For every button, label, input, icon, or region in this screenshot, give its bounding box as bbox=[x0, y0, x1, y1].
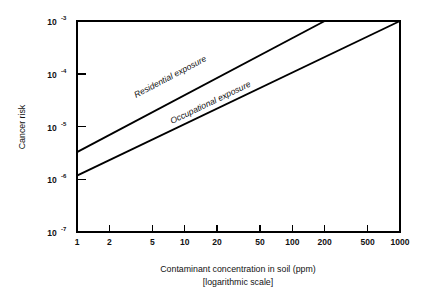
x-tick-label-5: 50 bbox=[255, 237, 265, 247]
x-axis-ticks bbox=[77, 225, 400, 232]
x-axis-tick-labels: 1 2 5 10 20 50 100 200 500 1000 bbox=[75, 237, 410, 247]
y-axis-tick-labels: 10 -3 10 -4 10 -5 10 -6 10 -7 bbox=[47, 15, 67, 238]
y-tick-label-exp-3: -6 bbox=[61, 173, 67, 179]
x-tick-label-9: 1000 bbox=[391, 237, 410, 247]
x-tick-label-3: 10 bbox=[180, 237, 190, 247]
cancer-risk-chart-figure: 10 -3 10 -4 10 -5 10 -6 10 -7 Cancer ris… bbox=[0, 0, 436, 298]
y-tick-label-exp-2: -5 bbox=[61, 121, 67, 127]
x-tick-label-1: 2 bbox=[107, 237, 112, 247]
x-axis-title: Contaminant concentration in soil (ppm) bbox=[160, 264, 316, 274]
series-line-residential bbox=[77, 21, 325, 152]
y-tick-label-exp-0: -3 bbox=[61, 15, 67, 21]
y-tick-label-base-1: 10 bbox=[47, 70, 57, 80]
x-axis-subtitle: [logarithmic scale] bbox=[203, 277, 273, 287]
series-label-occupational: Occupational exposure bbox=[169, 79, 253, 126]
x-tick-label-4: 20 bbox=[212, 237, 222, 247]
x-tick-label-7: 200 bbox=[318, 237, 332, 247]
series-label-residential: Residential exposure bbox=[132, 53, 208, 99]
y-tick-label-base-3: 10 bbox=[47, 175, 57, 185]
chart-canvas: 10 -3 10 -4 10 -5 10 -6 10 -7 Cancer ris… bbox=[0, 0, 436, 298]
y-tick-label-base-0: 10 bbox=[47, 17, 57, 27]
y-tick-label-base-4: 10 bbox=[47, 228, 57, 238]
x-tick-label-0: 1 bbox=[75, 237, 80, 247]
y-tick-label-exp-4: -7 bbox=[61, 226, 67, 232]
y-axis-title: Cancer risk bbox=[17, 104, 27, 149]
y-tick-label-exp-1: -4 bbox=[61, 68, 67, 74]
x-tick-label-6: 100 bbox=[285, 237, 299, 247]
y-tick-label-base-2: 10 bbox=[47, 123, 57, 133]
x-tick-label-8: 500 bbox=[361, 237, 375, 247]
series-line-occupational bbox=[77, 21, 400, 176]
x-tick-label-2: 5 bbox=[150, 237, 155, 247]
y-axis-ticks bbox=[77, 21, 86, 232]
